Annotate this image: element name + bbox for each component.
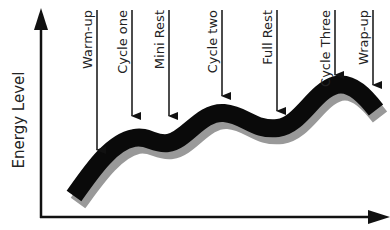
y-axis — [34, 8, 48, 218]
x-axis — [40, 210, 390, 224]
marker-label-warm-up: Warm-up — [80, 10, 95, 69]
x-axis-arrowhead-icon — [368, 210, 390, 224]
marker-label-cycle-two: Cycle two — [205, 10, 220, 73]
marker-label-full-rest: Full Rest — [260, 10, 275, 65]
marker-label-cycle-three: Cycle Three — [318, 10, 333, 87]
y-axis-label: Energy Level — [10, 72, 28, 169]
y-axis-arrowhead-icon — [34, 8, 48, 30]
marker-label-wrap-up: Wrap-up — [356, 10, 371, 65]
marker-label-mini-rest: Mini Rest — [152, 10, 167, 69]
energy-level-diagram: Warm-up Cycle one Mini Rest Cycle two Fu… — [0, 0, 390, 230]
marker-label-cycle-one: Cycle one — [115, 10, 130, 74]
